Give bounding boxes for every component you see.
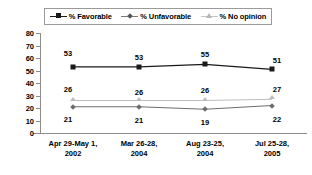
square-marker-icon <box>50 12 67 21</box>
line-no-opinion <box>73 99 272 100</box>
data-label-no-opinion: 26 <box>64 86 72 94</box>
data-point-unfavorable <box>70 104 76 110</box>
x-axis-line <box>33 133 307 134</box>
x-category-line1: Apr 29-May 1, <box>49 139 98 148</box>
x-category-line1: Jul 25-28, <box>255 139 289 148</box>
data-point-no-opinion <box>269 95 275 99</box>
data-label-unfavorable: 21 <box>64 116 72 124</box>
x-category-line2: 2002 <box>65 149 82 158</box>
legend-label-no-opinion: % No opinion <box>220 13 267 21</box>
x-category-line1: Aug 23-25, <box>186 139 224 148</box>
legend-label-unfavorable: % Unfavorable <box>140 13 191 21</box>
x-axis-labels: Apr 29-May 1, 2002 Mar 26-28, 2004 Aug 2… <box>33 139 307 169</box>
y-tick-label-70: 70 <box>16 43 34 51</box>
legend-item-unfavorable[interactable]: % Unfavorable <box>121 12 191 21</box>
x-category-line2: 2005 <box>264 149 281 158</box>
data-label-no-opinion: 27 <box>273 86 281 94</box>
data-label-favorable: 51 <box>273 57 281 65</box>
diamond-marker-icon <box>121 12 138 21</box>
x-category-line1: Mar 26-28, <box>121 139 158 148</box>
y-axis-line <box>40 33 41 133</box>
y-tick-label-60: 60 <box>16 55 34 63</box>
x-category-line2: 2004 <box>197 149 214 158</box>
x-category-label: Jul 25-28, 2005 <box>232 139 312 159</box>
data-label-favorable: 55 <box>201 51 209 59</box>
y-tick-label-30: 30 <box>16 93 34 101</box>
data-point-unfavorable <box>136 104 142 110</box>
data-label-no-opinion: 26 <box>201 87 209 95</box>
data-point-unfavorable <box>269 103 275 109</box>
y-tick-label-20: 20 <box>16 105 34 113</box>
x-category-line2: 2004 <box>131 149 148 158</box>
y-tick-label-50: 50 <box>16 68 34 76</box>
data-point-favorable <box>203 62 208 67</box>
triangle-marker-icon <box>201 12 218 21</box>
data-label-favorable: 53 <box>64 50 72 58</box>
data-label-favorable: 53 <box>135 54 143 62</box>
y-tick-label-80: 80 <box>16 30 34 38</box>
data-label-unfavorable: 19 <box>201 119 209 127</box>
data-point-no-opinion <box>70 97 76 101</box>
legend-item-no-opinion[interactable]: % No opinion <box>201 12 267 21</box>
y-tick-label-0: 0 <box>16 130 34 138</box>
data-label-unfavorable: 21 <box>135 117 143 125</box>
line-chart: % Favorable % Unfavorable % No opinion 8… <box>0 0 312 175</box>
y-axis-labels: 80 70 60 50 40 30 20 10 0 <box>12 33 34 133</box>
data-point-unfavorable <box>202 106 208 112</box>
data-point-favorable <box>137 64 142 69</box>
legend-item-favorable[interactable]: % Favorable <box>50 12 112 21</box>
data-point-favorable <box>71 64 76 69</box>
y-tick-label-40: 40 <box>16 80 34 88</box>
data-point-no-opinion <box>136 97 142 101</box>
data-label-no-opinion: 26 <box>135 89 143 97</box>
legend-label-favorable: % Favorable <box>69 13 112 21</box>
chart-legend: % Favorable % Unfavorable % No opinion <box>44 8 272 25</box>
line-favorable <box>73 64 272 69</box>
data-point-no-opinion <box>202 97 208 101</box>
data-label-unfavorable: 22 <box>273 116 281 124</box>
data-point-favorable <box>270 67 275 72</box>
y-tick-label-10: 10 <box>16 118 34 126</box>
line-unfavorable <box>73 106 272 110</box>
